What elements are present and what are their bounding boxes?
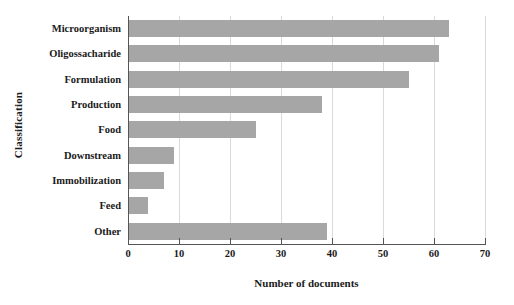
x-axis-tick: [281, 238, 282, 245]
bar-series: [128, 16, 485, 244]
bar-row: [128, 92, 485, 117]
bar-row: [128, 41, 485, 66]
x-axis-tick-label: 50: [378, 248, 389, 259]
x-axis-tick: [128, 238, 129, 245]
bar-row: [128, 193, 485, 218]
x-axis-tick-labels: 010203040506070: [128, 248, 485, 264]
x-axis-tick-label: 30: [276, 248, 287, 259]
bar-row: [128, 67, 485, 92]
y-axis-tick-label: Microorganism: [34, 16, 126, 41]
x-axis-tick-label: 60: [429, 248, 440, 259]
bar-row: [128, 16, 485, 41]
x-axis-tick-label: 20: [225, 248, 236, 259]
bar: [128, 45, 439, 62]
bar: [128, 121, 256, 138]
x-axis-tick: [332, 238, 333, 245]
x-axis-ticks: [128, 238, 485, 245]
bar: [128, 172, 164, 189]
bar-row: [128, 143, 485, 168]
x-axis-tick-label: 10: [174, 248, 185, 259]
bar: [128, 197, 148, 214]
x-axis-tick: [434, 238, 435, 245]
bar-row: [128, 168, 485, 193]
y-axis-tick-label: Oligossacharide: [34, 41, 126, 66]
bar: [128, 147, 174, 164]
y-axis-tick-label: Production: [34, 92, 126, 117]
y-axis-tick-label: Food: [34, 117, 126, 142]
y-axis-tick-label: Other: [34, 219, 126, 244]
chart-figure: Classification MicroorganismOligossachar…: [0, 0, 514, 305]
bar: [128, 96, 322, 113]
x-axis-tick: [179, 238, 180, 245]
y-axis-line: [128, 16, 129, 244]
y-axis-tick-label: Immobilization: [34, 168, 126, 193]
x-axis-title: Number of documents: [128, 277, 485, 289]
x-axis-tick: [485, 238, 486, 245]
x-axis-tick-label: 70: [480, 248, 491, 259]
bar-row: [128, 117, 485, 142]
y-axis-tick-label: Downstream: [34, 143, 126, 168]
y-axis-title: Classification: [0, 0, 36, 250]
bar: [128, 20, 449, 37]
gridline: [485, 16, 486, 244]
y-axis-tick-label: Formulation: [34, 67, 126, 92]
x-axis-tick-label: 40: [327, 248, 338, 259]
y-axis-tick-label: Feed: [34, 193, 126, 218]
bar: [128, 71, 409, 88]
x-axis-tick: [230, 238, 231, 245]
plot-area: [128, 16, 485, 244]
x-axis-tick: [383, 238, 384, 245]
y-axis-tick-labels: MicroorganismOligossacharideFormulationP…: [34, 16, 126, 244]
y-axis-title-text: Classification: [12, 92, 24, 158]
x-axis-tick-label: 0: [125, 248, 130, 259]
